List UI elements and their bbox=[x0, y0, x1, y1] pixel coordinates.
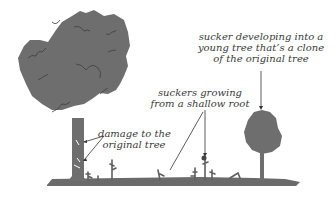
young-tree-trunk bbox=[260, 150, 264, 180]
suckers bbox=[86, 160, 240, 180]
label-line: young tree that’s a clone bbox=[196, 42, 326, 53]
label-damage: damage to the original tree bbox=[98, 128, 170, 150]
label-suckers: suckers growing from a shallow root bbox=[150, 87, 250, 109]
label-line: of the original tree bbox=[196, 53, 326, 64]
original-tree-trunk bbox=[68, 118, 88, 181]
diagram-canvas: sucker developing into a young tree that… bbox=[0, 0, 336, 197]
label-line: suckers growing bbox=[150, 87, 250, 98]
label-clone-tree: sucker developing into a young tree that… bbox=[196, 31, 326, 64]
label-line: original tree bbox=[98, 139, 170, 150]
label-line: sucker developing into a bbox=[196, 31, 326, 42]
label-line: damage to the bbox=[98, 128, 170, 139]
original-tree-canopy bbox=[18, 10, 130, 110]
label-line: from a shallow root bbox=[150, 98, 250, 109]
young-tree-canopy bbox=[244, 110, 282, 154]
sucker-bud bbox=[202, 156, 207, 161]
